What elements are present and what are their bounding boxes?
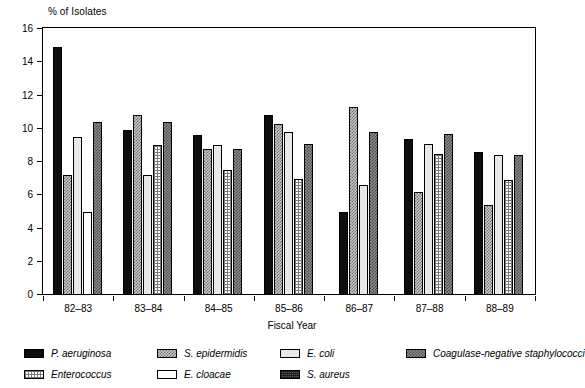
- x-tick-mark: [394, 296, 395, 301]
- y-axis-title: % of Isolates: [48, 6, 107, 17]
- bar-sepidermidis: [63, 175, 72, 295]
- legend-swatch-icon: [24, 370, 44, 379]
- legend-row: P. aeruginosaS. epidermidisE. coliCoagul…: [24, 346, 580, 361]
- legend-swatch-icon: [406, 349, 426, 358]
- bar-group: [404, 27, 453, 295]
- legend-row: EnterococcusE. cloacaeS. aureus: [24, 367, 580, 382]
- x-tick-mark: [324, 296, 325, 301]
- x-tick-label: 84–85: [205, 303, 233, 314]
- bar-sepidermidis: [484, 205, 493, 295]
- y-axis: 1614121086420: [0, 27, 42, 296]
- bar-ecoli: [143, 175, 152, 295]
- bar-enterococcus: [223, 170, 232, 295]
- x-tick-label: 82–83: [64, 303, 92, 314]
- bar-ecloacae: [83, 212, 92, 295]
- y-tick-label: 8: [27, 156, 33, 167]
- bar-enterococcus: [434, 154, 443, 295]
- bar-coagneg: [514, 155, 523, 295]
- bar-ecoli: [213, 145, 222, 295]
- x-tick-mark: [184, 296, 185, 301]
- bar-sepidermidis: [349, 107, 358, 295]
- bar-paeruginosa: [264, 115, 273, 295]
- bar-coagneg: [304, 144, 313, 295]
- bar-ecoli: [73, 137, 82, 295]
- legend-label: Enterococcus: [51, 369, 112, 380]
- bar-enterococcus: [153, 145, 162, 295]
- x-tick-label: 85–86: [275, 303, 303, 314]
- legend-item[interactable]: E. cloacae: [157, 367, 231, 382]
- legend-label: S. epidermidis: [184, 348, 247, 359]
- y-tick-label: 2: [27, 255, 33, 266]
- x-tick-mark: [465, 296, 466, 301]
- bar-paeruginosa: [123, 130, 132, 295]
- bar-coagneg: [233, 149, 242, 295]
- y-tick-label: 6: [27, 189, 33, 200]
- legend-item[interactable]: E. coli: [280, 346, 334, 361]
- plot-area: [42, 27, 536, 295]
- x-tick-mark: [535, 296, 536, 301]
- x-tick-label: 87–88: [416, 303, 444, 314]
- x-tick-mark: [113, 296, 114, 301]
- bar-coagneg: [444, 134, 453, 295]
- legend-item[interactable]: Enterococcus: [24, 367, 112, 382]
- bar-sepidermidis: [203, 149, 212, 295]
- bar-paeruginosa: [53, 47, 62, 295]
- bar-group: [53, 27, 102, 295]
- legend-swatch-icon: [280, 370, 300, 379]
- x-tick-label: 86–87: [345, 303, 373, 314]
- bar-paeruginosa: [474, 152, 483, 295]
- x-axis-title: Fiscal Year: [0, 320, 584, 331]
- bar-group: [193, 27, 242, 295]
- legend-item[interactable]: S. aureus: [280, 367, 350, 382]
- bar-group: [264, 27, 313, 295]
- x-tick-label: 83–84: [135, 303, 163, 314]
- x-tick-mark: [43, 296, 44, 301]
- bar-enterococcus: [294, 179, 303, 295]
- legend-item[interactable]: Coagulase-negative staphylococci: [406, 346, 585, 361]
- bar-coagneg: [163, 122, 172, 295]
- bar-coagneg: [369, 132, 378, 295]
- x-tick-label: 88–89: [486, 303, 514, 314]
- legend-label: E. cloacae: [184, 369, 231, 380]
- y-tick-label: 12: [22, 89, 33, 100]
- legend-label: Coagulase-negative staphylococci: [433, 348, 585, 359]
- legend-label: E. coli: [307, 348, 334, 359]
- x-axis: 82–8383–8484–8585–8686–8787–8888–89: [43, 296, 535, 318]
- legend-swatch-icon: [280, 349, 300, 358]
- bar-series-container: [42, 27, 536, 295]
- bar-sepidermidis: [274, 124, 283, 295]
- bar-ecoli: [284, 132, 293, 295]
- bar-ecoli: [424, 144, 433, 295]
- bar-enterococcus: [504, 180, 513, 295]
- bar-ecoli: [494, 155, 503, 295]
- legend-label: S. aureus: [307, 369, 350, 380]
- legend-item[interactable]: P. aeruginosa: [24, 346, 111, 361]
- legend-swatch-icon: [157, 349, 177, 358]
- bar-group: [474, 27, 523, 295]
- y-tick-label: 0: [27, 289, 33, 300]
- bar-sepidermidis: [133, 115, 142, 295]
- bar-ecoli: [359, 185, 368, 295]
- y-tick-label: 16: [22, 23, 33, 34]
- legend: P. aeruginosaS. epidermidisE. coliCoagul…: [24, 346, 580, 384]
- x-tick-mark: [254, 296, 255, 301]
- y-tick-label: 4: [27, 222, 33, 233]
- legend-item[interactable]: S. epidermidis: [157, 346, 247, 361]
- bar-paeruginosa: [404, 139, 413, 295]
- legend-swatch-icon: [157, 370, 177, 379]
- y-tick-label: 10: [22, 122, 33, 133]
- legend-label: P. aeruginosa: [51, 348, 111, 359]
- bar-sepidermidis: [414, 192, 423, 295]
- bar-group: [123, 27, 172, 295]
- bar-paeruginosa: [193, 135, 202, 295]
- legend-swatch-icon: [24, 349, 44, 358]
- y-tick-label: 14: [22, 56, 33, 67]
- bar-paeruginosa: [339, 212, 348, 295]
- bar-coagneg: [93, 122, 102, 295]
- bar-group: [339, 27, 378, 295]
